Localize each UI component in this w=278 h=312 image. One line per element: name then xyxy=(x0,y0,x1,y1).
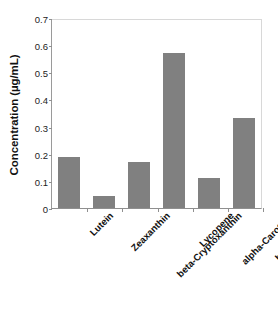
x-axis-category-label-text: Zeaxanthin xyxy=(128,210,171,253)
x-axis-category-label-text: beta-Cryptoxanthin xyxy=(174,210,243,279)
x-axis-category-label: beta-Cryptoxanthin xyxy=(174,210,243,279)
y-axis-tick-label: 0.4 xyxy=(22,95,48,106)
bar-chart-figure: Concentration (µg/mL) 00.10.20.30.40.50.… xyxy=(0,0,278,312)
bar-series xyxy=(52,20,261,208)
y-axis-tick-mark xyxy=(49,155,52,156)
y-axis-tick-label: 0.7 xyxy=(22,14,48,25)
bar xyxy=(128,162,150,208)
y-axis-tick-mark xyxy=(49,46,52,47)
y-axis-tick-label: 0.2 xyxy=(22,149,48,160)
bar xyxy=(233,118,255,209)
x-axis-category-labels: LuteinZeaxanthinbeta-CryptoxanthinLycope… xyxy=(51,210,262,310)
y-axis-tick-label: 0 xyxy=(22,204,48,215)
x-axis-category-label: alpha-Carotene xyxy=(240,210,278,267)
y-axis-tick-mark xyxy=(49,182,52,183)
bar xyxy=(58,157,80,208)
x-axis-tick-mark xyxy=(263,208,264,212)
y-axis-tick-label: 0.6 xyxy=(22,41,48,52)
y-axis-tick-labels: 00.10.20.30.40.50.60.7 xyxy=(20,0,48,312)
y-axis-title: Concentration (µg/mL) xyxy=(8,55,20,176)
y-axis-tick-mark xyxy=(49,100,52,101)
x-axis-category-label-text: Lutein xyxy=(87,210,115,238)
bar xyxy=(163,53,185,208)
bar xyxy=(93,196,115,208)
y-axis-tick-mark xyxy=(49,19,52,20)
plot-area xyxy=(51,19,262,209)
y-axis-tick-mark xyxy=(49,73,52,74)
x-axis-category-label: Zeaxanthin xyxy=(128,210,171,253)
y-axis-tick-label: 0.3 xyxy=(22,122,48,133)
y-axis-tick-label: 0.5 xyxy=(22,68,48,79)
x-axis-category-label-text: alpha-Carotene xyxy=(240,210,278,267)
y-axis-tick-mark xyxy=(49,128,52,129)
x-axis-category-label: Lutein xyxy=(87,210,115,238)
y-axis-tick-label: 0.1 xyxy=(22,176,48,187)
bar xyxy=(198,178,220,208)
